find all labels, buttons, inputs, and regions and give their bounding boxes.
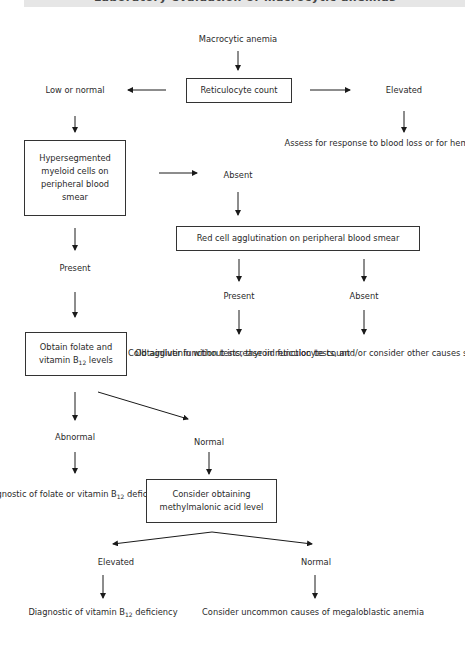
abnormal-outcome: Diagnostic of folate or vitamin B12 defi… <box>0 488 169 501</box>
hyperseg-present-label: Present <box>59 262 90 275</box>
retic-elevated-label: Elevated <box>386 84 422 97</box>
hyperseg-absent-label: Absent <box>224 169 253 182</box>
hypersegmented-box: Hypersegmented myeloid cells on peripher… <box>24 140 126 216</box>
mma-elevated-label: Elevated <box>98 556 134 569</box>
retic-low-label: Low or normal <box>45 84 104 97</box>
other-causes-outcome: Obtainliver function tests, thyroid func… <box>135 347 465 360</box>
elevated-outcome: Assess for response to blood loss or for… <box>285 137 465 150</box>
arrow-mma-normal <box>212 532 312 544</box>
agglutination-box: Red cell agglutination on peripheral blo… <box>176 226 420 251</box>
agglut-present-label: Present <box>223 290 254 303</box>
arrow-mma-elevated <box>113 532 212 544</box>
folate-abnormal-label: Abnormal <box>55 431 95 444</box>
folate-b12-box: Obtain folate and vitamin B12 levels <box>25 332 127 376</box>
start-label: Macrocytic anemia <box>199 33 277 46</box>
mma-normal-outcome: Consider uncommon causes of megaloblasti… <box>202 606 424 619</box>
folate-normal-label: Normal <box>194 436 224 449</box>
reticulocyte-count-label: Reticulocyte count <box>200 84 277 97</box>
mma-normal-label: Normal <box>301 556 331 569</box>
mma-elevated-outcome: Diagnostic of vitamin B12 deficiency <box>28 606 177 619</box>
agglut-absent-label: Absent <box>350 290 379 303</box>
reticulocyte-count-box: Reticulocyte count <box>186 78 292 103</box>
mma-box: Consider obtaining methylmalonic acid le… <box>146 479 277 523</box>
arrow-folate-normal <box>98 392 188 419</box>
